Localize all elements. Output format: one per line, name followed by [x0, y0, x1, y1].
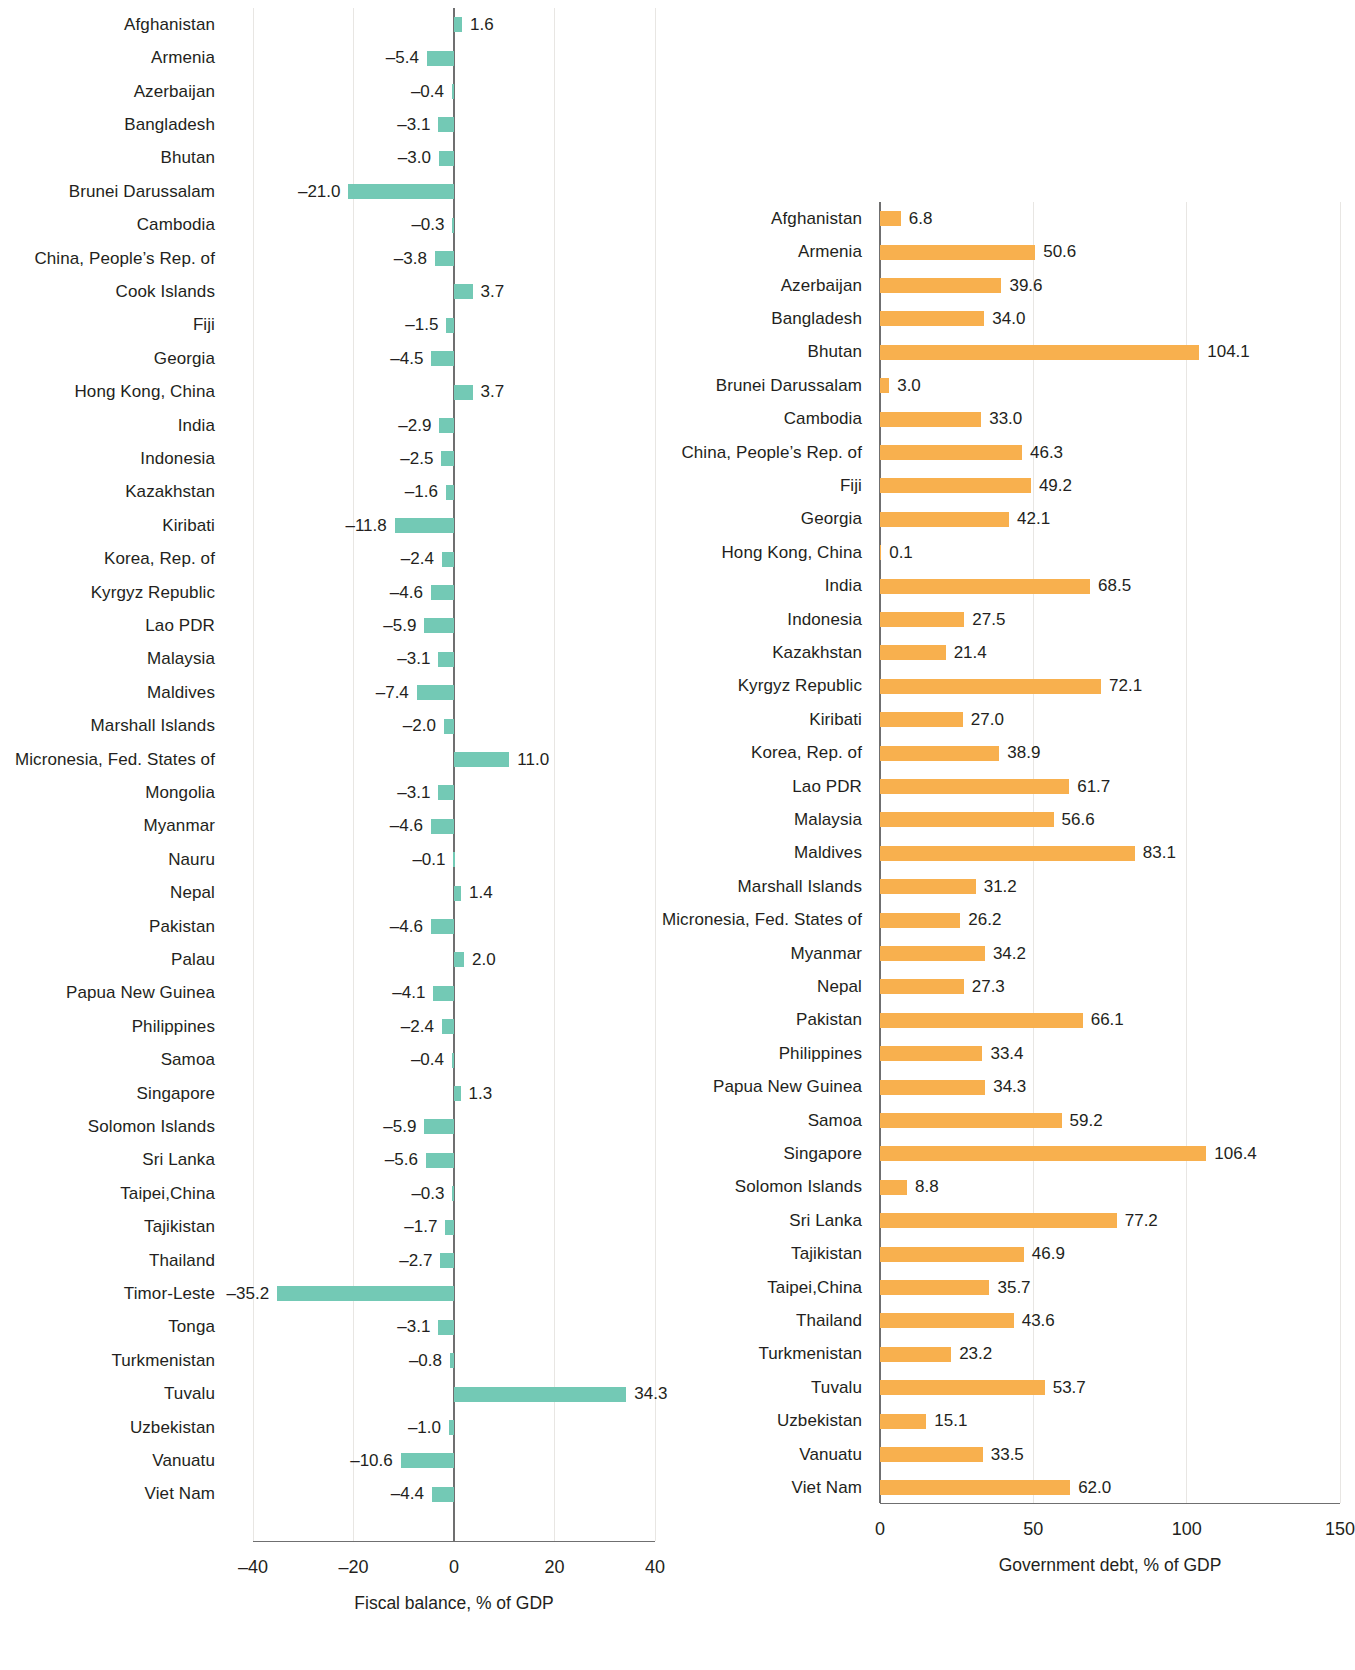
bar-value-label: –5.9 — [0, 1116, 416, 1138]
bar-value-label: 106.4 — [1214, 1143, 1257, 1165]
category-label: Thailand — [620, 1310, 862, 1332]
bar — [880, 345, 1199, 360]
bar-value-label: 27.5 — [972, 609, 1005, 631]
bar-value-label: –1.0 — [0, 1417, 441, 1439]
bar-value-label: –3.1 — [0, 1316, 430, 1338]
bar-value-label: 27.0 — [971, 709, 1004, 731]
category-label: Myanmar — [620, 943, 862, 965]
bar-value-label: 77.2 — [1125, 1210, 1158, 1232]
bar — [880, 1080, 985, 1095]
bar — [432, 1487, 454, 1502]
x-axis-tick-label: 20 — [544, 1557, 564, 1578]
category-label: Kiribati — [620, 709, 862, 731]
bar-value-label: 33.0 — [989, 408, 1022, 430]
bar-value-label: –2.7 — [0, 1250, 432, 1272]
bar-value-label: 8.8 — [915, 1176, 939, 1198]
bar — [453, 852, 454, 867]
category-label: Indonesia — [620, 609, 862, 631]
bar — [454, 1086, 461, 1101]
bar-value-label: 83.1 — [1143, 842, 1176, 864]
bar-value-label: –1.6 — [0, 481, 438, 503]
bar — [880, 478, 1031, 493]
bar — [880, 245, 1035, 260]
x-axis-tick-label: 50 — [1023, 1519, 1043, 1540]
bar — [880, 712, 963, 727]
bar-value-label: –10.6 — [0, 1450, 393, 1472]
gridline — [554, 8, 555, 1541]
bar — [438, 1320, 454, 1335]
bar — [438, 785, 454, 800]
bar-value-label: 34.0 — [992, 308, 1025, 330]
bar — [445, 1220, 454, 1235]
bar — [880, 1347, 951, 1362]
bar — [431, 919, 454, 934]
bar — [880, 211, 901, 226]
category-label: Armenia — [620, 241, 862, 263]
bar — [880, 579, 1090, 594]
category-label: Georgia — [620, 508, 862, 530]
category-label: Kazakhstan — [620, 642, 862, 664]
bar-value-label: –3.1 — [0, 648, 430, 670]
bar-value-label: 61.7 — [1077, 776, 1110, 798]
category-label: Palau — [0, 949, 215, 971]
bar — [454, 752, 509, 767]
bar — [880, 1414, 926, 1429]
bar — [880, 1213, 1117, 1228]
bar — [880, 612, 964, 627]
category-label: Cook Islands — [0, 281, 215, 303]
bar-value-label: 62.0 — [1078, 1477, 1111, 1499]
bar-value-label: 3.7 — [481, 281, 505, 303]
bar — [880, 1447, 983, 1462]
bar-value-label: –0.8 — [0, 1350, 442, 1372]
bar — [880, 1113, 1062, 1128]
category-label: Tuvalu — [0, 1383, 215, 1405]
bar-value-label: –5.6 — [0, 1149, 418, 1171]
category-label: Nepal — [0, 882, 215, 904]
x-axis-tick-label: –20 — [338, 1557, 368, 1578]
x-axis-title: Government debt, % of GDP — [999, 1555, 1222, 1576]
category-label: Solomon Islands — [620, 1176, 862, 1198]
bar-value-label: –4.4 — [0, 1483, 424, 1505]
category-label: Singapore — [0, 1083, 215, 1105]
bar — [435, 251, 454, 266]
bar — [880, 846, 1135, 861]
bar — [880, 1313, 1014, 1328]
zero-baseline — [453, 8, 454, 1541]
bar-value-label: –7.4 — [0, 682, 409, 704]
bar-value-label: –2.5 — [0, 448, 433, 470]
bar-value-label: 35.7 — [997, 1277, 1030, 1299]
bar — [880, 1046, 982, 1061]
bar-value-label: 34.2 — [993, 943, 1026, 965]
bar-value-label: 3.0 — [897, 375, 921, 397]
bar — [880, 311, 984, 326]
bar-value-label: –2.4 — [0, 1016, 434, 1038]
bar-value-label: –35.2 — [0, 1283, 269, 1305]
bar — [446, 318, 454, 333]
category-label: Nepal — [620, 976, 862, 998]
gridline — [353, 8, 354, 1541]
x-axis-line — [880, 1503, 1340, 1504]
bar — [442, 1019, 454, 1034]
bar-value-label: –4.5 — [0, 348, 423, 370]
bar-value-label: –3.1 — [0, 782, 430, 804]
bar — [431, 585, 454, 600]
gridline — [253, 8, 254, 1541]
bar-value-label: –4.1 — [0, 982, 425, 1004]
category-label: Afghanistan — [0, 14, 215, 36]
category-label: Viet Nam — [620, 1477, 862, 1499]
category-label: Azerbaijan — [620, 275, 862, 297]
x-axis-tick-label: 0 — [449, 1557, 459, 1578]
category-label: Hong Kong, China — [0, 381, 215, 403]
category-label: Uzbekistan — [620, 1410, 862, 1432]
bar — [880, 1280, 989, 1295]
bar — [348, 184, 454, 199]
bar — [438, 117, 454, 132]
bar-value-label: 1.4 — [469, 882, 493, 904]
bar — [880, 779, 1069, 794]
bar — [454, 886, 461, 901]
fiscal-balance-chart-panel: –40–2002040Fiscal balance, % of GDPAfgha… — [0, 0, 690, 1670]
category-label: Cambodia — [620, 408, 862, 430]
bar — [454, 1387, 626, 1402]
x-axis-line — [253, 1541, 655, 1542]
